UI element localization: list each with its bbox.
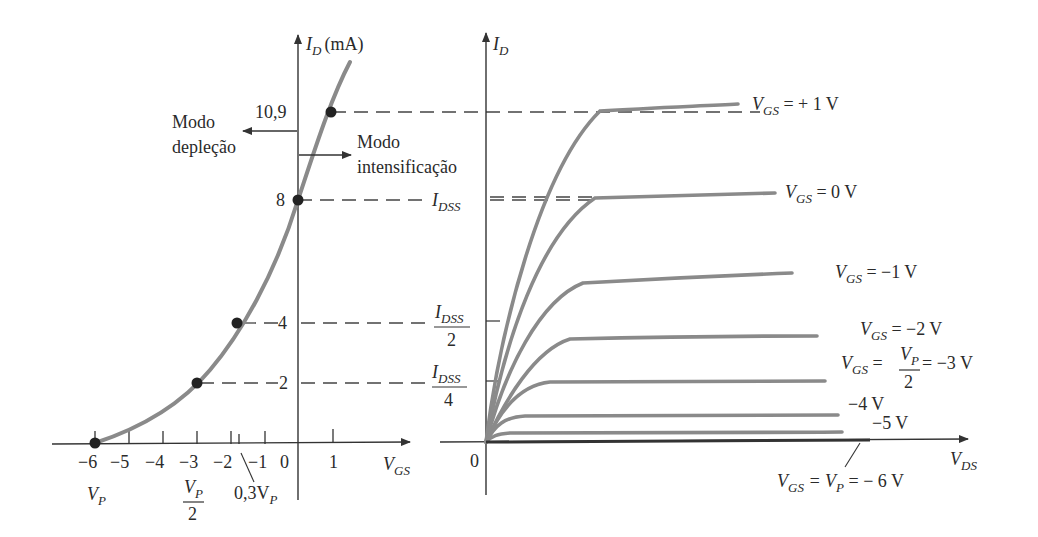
svg-text:0: 0 [280, 452, 289, 472]
drain-characteristics-plot: ID 0 VDS VGS = + 1 V VGS = 0 V VGS = −1 … [440, 33, 977, 495]
enhancement-mode-label-2: intensificação [357, 157, 457, 177]
curve-vgs-0 [486, 193, 775, 442]
label-vgs-minus1: VGS = −1 V [835, 262, 917, 286]
left-y-label: ID(mA) [305, 34, 363, 58]
label-vgs-minus6: VGS = VP = − 6 V [777, 471, 904, 495]
vds-axis-label: VDS [950, 449, 977, 473]
curve-points [90, 107, 337, 449]
vp-label: VP [87, 484, 106, 508]
right-y-label: ID [492, 34, 509, 58]
projection-dashes [200, 112, 760, 383]
svg-text:1: 1 [329, 452, 338, 472]
vgs-axis-label: VGS [383, 454, 410, 478]
svg-text:2: 2 [447, 330, 456, 350]
svg-text:−3: −3 [179, 452, 198, 472]
drain-curves [486, 104, 842, 442]
idss-half-label: IDSS 2 [434, 302, 470, 350]
depletion-mode-label-1: Modo [172, 112, 215, 132]
idss-reference-labels: IDSS IDSS 2 IDSS 4 [431, 190, 470, 410]
svg-text:4: 4 [444, 390, 453, 410]
svg-text:VP: VP [184, 477, 203, 501]
label-vgs-minus3: VGS = VP 2 = −3 V [841, 344, 973, 392]
svg-text:IDSS: IDSS [434, 302, 464, 326]
svg-text:2: 2 [188, 504, 197, 524]
jfet-characteristics-figure: ID(mA) 10,9 8 4 2 −6 −5 −4 −3 −2 −1 0 1 … [0, 0, 1038, 537]
ytick-2: 2 [279, 373, 288, 393]
svg-text:−5: −5 [110, 452, 129, 472]
curve-vgs-minus2 [486, 336, 817, 442]
curve-vgs-minus6 [486, 440, 870, 442]
curve-vgs-minus4 [486, 415, 838, 442]
vgs-minus6-pointer [845, 443, 860, 467]
ytick-10-9: 10,9 [255, 102, 287, 122]
idss-quarter-label: IDSS 4 [431, 362, 467, 410]
transfer-curve [95, 62, 350, 443]
svg-text:−6: −6 [78, 452, 97, 472]
label-vgs-plus1: VGS = + 1 V [752, 94, 839, 118]
svg-text:IDSS: IDSS [431, 362, 461, 386]
svg-text:VP: VP [900, 344, 919, 368]
vgs-tick-labels: −6 −5 −4 −3 −2 −1 0 1 [78, 452, 338, 472]
svg-text:−1: −1 [248, 452, 267, 472]
label-vgs-minus5: −5 V [872, 413, 908, 433]
label-vgs-0: VGS = 0 V [785, 182, 857, 206]
label-vgs-minus4: −4 V [848, 394, 884, 414]
svg-text:−2: −2 [213, 452, 232, 472]
point3vp-label: 0,3VP [234, 483, 278, 507]
origin-label: 0 [470, 451, 479, 471]
depletion-mode-label-2: depleção [172, 137, 236, 157]
idss-label: IDSS [431, 190, 461, 214]
label-vgs-minus2: VGS = −2 V [860, 319, 942, 343]
svg-text:−4: −4 [145, 452, 164, 472]
ytick-4: 4 [278, 313, 287, 333]
svg-text:VGS =: VGS = [841, 353, 883, 377]
svg-text:2: 2 [904, 372, 913, 392]
svg-text:= −3 V: = −3 V [922, 353, 973, 373]
enhancement-mode-label-1: Modo [357, 132, 400, 152]
ytick-8: 8 [276, 190, 285, 210]
vp-half-label: VP 2 [183, 477, 204, 524]
